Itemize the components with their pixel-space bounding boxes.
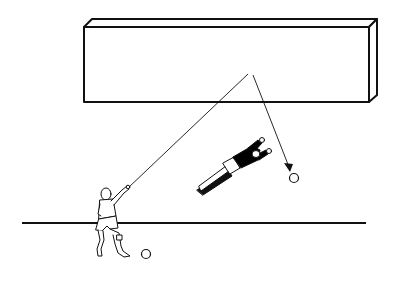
rebound-wall xyxy=(84,19,377,102)
ball xyxy=(142,250,151,259)
ball-rebound xyxy=(290,174,299,183)
illustration: Line drawing: a player throws the ball t… xyxy=(0,0,395,293)
player-throwing xyxy=(96,185,130,257)
goalkeeper-diving xyxy=(197,138,272,196)
